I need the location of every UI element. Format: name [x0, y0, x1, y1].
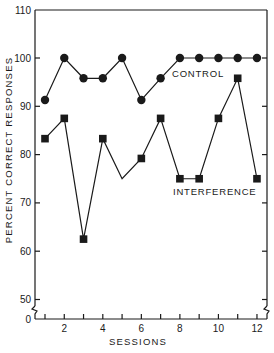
square-marker — [80, 235, 88, 243]
square-marker — [234, 74, 242, 82]
y-tick-label: 60 — [20, 246, 32, 257]
y-tick-label: 100 — [14, 53, 31, 64]
square-marker — [176, 175, 184, 183]
y-axis-ticks: 05060708090100110 — [14, 5, 267, 325]
control-line — [45, 58, 257, 100]
square-marker — [41, 135, 49, 143]
x-tick-label: 4 — [100, 323, 106, 334]
circle-marker — [195, 54, 203, 62]
interference-series-label: INTERFERENCE — [173, 186, 257, 197]
circle-marker — [137, 96, 145, 104]
y-axis-break — [32, 306, 37, 319]
circle-marker — [41, 96, 49, 104]
y-tick-label: 50 — [20, 294, 32, 305]
circle-marker — [118, 54, 126, 62]
control-series-label: CONTROL — [172, 68, 224, 79]
series-lines — [45, 58, 257, 239]
y-tick-label: 0 — [25, 314, 31, 325]
circle-marker — [99, 74, 107, 82]
series-markers — [41, 54, 261, 243]
x-tick-label: 12 — [251, 323, 263, 334]
circle-marker — [234, 54, 242, 62]
x-axis-ticks: 24681012 — [45, 314, 263, 334]
y-tick-label: 80 — [20, 149, 32, 160]
x-tick-label: 8 — [177, 323, 183, 334]
x-tick-label: 6 — [139, 323, 145, 334]
circle-marker — [214, 54, 222, 62]
square-marker — [157, 115, 165, 123]
square-marker — [60, 115, 68, 123]
square-marker — [138, 155, 146, 163]
y-axis-title: PERCENT CORRECT RESPONSES — [3, 57, 14, 243]
right-axis-break — [264, 306, 269, 319]
interference-line — [45, 78, 257, 239]
circle-marker — [176, 54, 184, 62]
square-marker — [215, 115, 223, 123]
y-tick-label: 110 — [15, 5, 31, 16]
circle-marker — [79, 74, 87, 82]
square-marker — [99, 135, 107, 143]
line-chart: 05060708090100110 24681012 CONTROL INTER… — [0, 0, 274, 353]
y-tick-label: 90 — [20, 101, 32, 112]
x-axis-title: SESSIONS — [109, 336, 167, 347]
square-marker — [253, 175, 261, 183]
circle-marker — [60, 54, 68, 62]
circle-marker — [253, 54, 261, 62]
square-marker — [195, 175, 203, 183]
x-tick-label: 2 — [61, 323, 67, 334]
circle-marker — [156, 74, 164, 82]
y-tick-label: 70 — [20, 197, 32, 208]
x-tick-label: 10 — [213, 323, 225, 334]
